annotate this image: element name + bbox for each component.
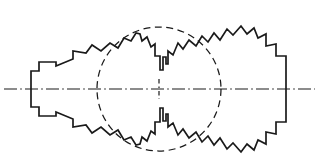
drawing-canvas: [0, 0, 319, 165]
technical-drawing-figure: [0, 0, 319, 165]
